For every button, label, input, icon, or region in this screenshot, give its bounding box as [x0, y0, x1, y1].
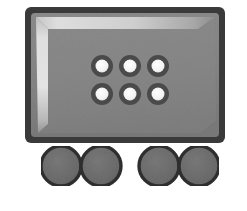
wheel-rear-left	[139, 146, 179, 186]
hole-3	[147, 55, 169, 77]
hole-6	[147, 83, 169, 105]
vent-hole-row-bottom	[91, 83, 169, 105]
vent-hole-row-top	[91, 55, 169, 77]
bevel-highlight-top	[36, 17, 215, 29]
illustration-canvas: Trolley Cart Grayscale clip-art icon of …	[0, 0, 247, 211]
hole-2	[119, 55, 141, 77]
hole-4	[91, 83, 113, 105]
wheel-front-left	[41, 146, 81, 186]
cart-body-group	[25, 7, 225, 143]
cart-illustration	[0, 0, 247, 211]
hole-1	[91, 55, 113, 77]
bevel-highlight-left	[36, 17, 48, 133]
hole-5	[119, 83, 141, 105]
wheel-front-right	[81, 146, 121, 186]
wheel-rear-right	[179, 146, 219, 186]
